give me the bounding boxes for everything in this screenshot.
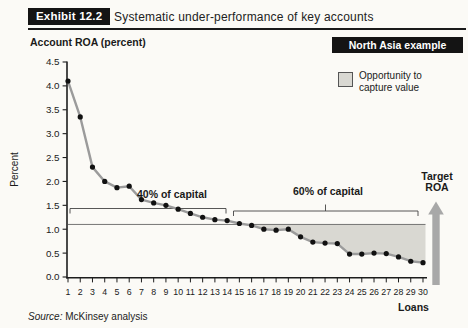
x-tick-label: 16 — [247, 287, 257, 297]
annotation-40-percent: 40% of capital — [112, 188, 232, 200]
bracket-40-percent — [70, 209, 226, 214]
data-point — [163, 203, 168, 208]
x-tick-label: 26 — [369, 287, 379, 297]
data-point — [78, 114, 83, 119]
data-point — [65, 79, 70, 84]
data-point — [261, 227, 266, 232]
y-tick-label: 1.5 — [46, 200, 60, 211]
data-point — [176, 207, 181, 212]
data-point — [359, 251, 364, 256]
source-prefix: Source: — [28, 311, 62, 322]
x-tick-label: 25 — [357, 287, 367, 297]
target-roa-label: Target ROA — [407, 171, 467, 193]
data-point — [310, 240, 315, 245]
target-arrow-shaft — [432, 212, 439, 285]
x-tick-label: 30 — [418, 287, 428, 297]
x-tick-label: 5 — [115, 287, 120, 297]
y-tick-label: 0.0 — [46, 271, 60, 282]
x-tick-label: 8 — [151, 287, 156, 297]
source-text: McKinsey analysis — [65, 311, 147, 322]
data-point — [273, 228, 278, 233]
x-tick-label: 12 — [198, 287, 208, 297]
y-tick-label: 3.5 — [46, 104, 60, 115]
x-tick-label: 11 — [186, 287, 195, 297]
data-point — [151, 200, 156, 205]
x-tick-label: 7 — [139, 287, 144, 297]
x-tick-label: 27 — [381, 287, 391, 297]
data-point — [298, 234, 303, 239]
exhibit-page: Exhibit 12.2 Systematic under-performanc… — [0, 0, 468, 328]
x-tick-label: 28 — [394, 287, 404, 297]
x-tick-label: 17 — [259, 287, 269, 297]
y-axis-label: Percent — [9, 140, 20, 200]
x-tick-label: 3 — [90, 287, 95, 297]
data-point — [212, 217, 217, 222]
roa-chart: 4.54.03.53.02.52.01.51.00.50.01234567891… — [0, 0, 468, 328]
data-point — [225, 218, 230, 223]
data-point — [335, 241, 340, 246]
x-tick-label: 18 — [271, 287, 281, 297]
data-point — [237, 221, 242, 226]
x-tick-label: 20 — [296, 287, 306, 297]
target-roa-line2: ROA — [425, 181, 448, 193]
y-tick-label: 0.5 — [46, 248, 60, 259]
y-tick-label: 4.0 — [46, 80, 60, 91]
data-point — [322, 240, 327, 245]
data-point — [188, 211, 193, 216]
y-tick-label: 3.0 — [46, 128, 60, 139]
data-point — [420, 260, 425, 265]
x-tick-label: 1 — [66, 287, 71, 297]
annotation-60-percent: 60% of capital — [268, 185, 388, 197]
data-point — [396, 254, 401, 259]
data-point — [384, 251, 389, 256]
data-point — [347, 251, 352, 256]
x-tick-label: 19 — [283, 287, 293, 297]
data-point — [249, 223, 254, 228]
x-tick-label: 6 — [127, 287, 132, 297]
y-tick-label: 1.0 — [46, 224, 60, 235]
y-tick-label: 2.5 — [46, 152, 60, 163]
data-point — [90, 165, 95, 170]
x-tick-label: 2 — [78, 287, 83, 297]
x-tick-label: 15 — [234, 287, 244, 297]
x-tick-label: 21 — [308, 287, 318, 297]
y-tick-label: 2.0 — [46, 176, 60, 187]
data-point — [371, 251, 376, 256]
bracket-60-percent — [234, 205, 419, 217]
x-tick-label: 23 — [332, 287, 342, 297]
data-point — [102, 179, 107, 184]
data-point — [200, 215, 205, 220]
x-tick-label: 14 — [222, 287, 232, 297]
x-tick-label: 29 — [406, 287, 416, 297]
x-tick-label: 22 — [320, 287, 330, 297]
y-tick-label: 4.5 — [46, 56, 60, 67]
target-arrow-head — [428, 202, 444, 215]
x-axis-label: Loans — [398, 301, 429, 313]
source-note: Source: McKinsey analysis — [28, 311, 148, 322]
x-tick-label: 24 — [345, 287, 355, 297]
x-tick-label: 9 — [163, 287, 168, 297]
x-tick-label: 4 — [102, 287, 107, 297]
data-point — [286, 227, 291, 232]
data-point — [408, 259, 413, 264]
x-tick-label: 10 — [173, 287, 183, 297]
x-tick-label: 13 — [210, 287, 220, 297]
